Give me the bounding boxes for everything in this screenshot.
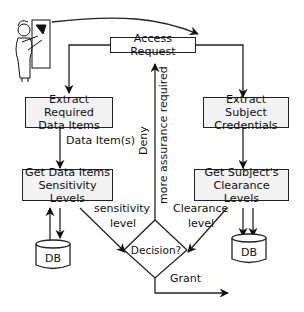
deny-edge-label: Deny: [138, 126, 150, 155]
access-request-box: Access Request: [110, 37, 196, 53]
decision-label: Decision?: [128, 244, 184, 256]
db-right-label: DB: [232, 246, 266, 259]
extract-required-line2: Data Items: [38, 119, 100, 132]
person-at-terminal-icon: [16, 20, 50, 82]
clearance-edge-label-1: Clearance: [173, 203, 228, 215]
extract-subject-credentials-box: Extract Subject Credentials: [203, 97, 289, 128]
clearance-edge-label-2: level: [188, 218, 214, 230]
grant-edge-label: Grant: [170, 273, 201, 285]
get-clearance-line2: Clearance Levels: [195, 179, 288, 205]
more-assurance-edge-label: more assurance required: [158, 66, 170, 204]
access-control-diagram: Access Request Extract Required Data Ite…: [0, 0, 304, 312]
db-left-label: DB: [36, 252, 70, 265]
extract-required-line1: Extract Required: [26, 93, 112, 119]
data-items-edge-label: Data Item(s): [66, 135, 135, 147]
access-request-label: Access Request: [111, 32, 195, 58]
get-sensitivity-levels-box: Get Data Items Sensitivity Levels: [22, 169, 113, 201]
get-sensitivity-line1: Get Data Items: [25, 166, 110, 179]
get-clearance-line1: Get Subject's: [204, 166, 278, 179]
extract-subject-line1: Extract Subject: [204, 93, 288, 119]
sensitivity-edge-label-2: level: [110, 218, 136, 230]
sensitivity-edge-label-1: sensitivity: [94, 203, 150, 215]
extract-subject-line2: Credentials: [214, 119, 277, 132]
get-clearance-levels-box: Get Subject's Clearance Levels: [194, 169, 289, 201]
get-sensitivity-line2: Sensitivity Levels: [23, 179, 112, 205]
extract-required-data-items-box: Extract Required Data Items: [25, 97, 113, 128]
